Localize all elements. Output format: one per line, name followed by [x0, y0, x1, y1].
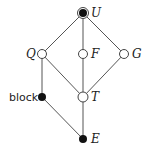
node-G-label: G: [132, 47, 142, 61]
node-F-circle-icon: [79, 50, 88, 59]
node-T-circle-icon: [78, 92, 88, 102]
node-Q-label: Q: [26, 47, 36, 61]
edge-U-G: [83, 13, 124, 54]
node-G-circle-icon: [120, 50, 129, 59]
node-E: E: [79, 132, 100, 146]
node-E-label: E: [90, 132, 100, 146]
node-T: T: [78, 90, 100, 104]
edge-U-Q: [42, 13, 83, 54]
node-Q-circle-icon: [38, 50, 47, 59]
node-block-dot-icon: [38, 93, 46, 101]
edge-Q-T: [42, 54, 83, 97]
node-T-label: T: [91, 90, 100, 104]
node-U: U: [78, 6, 103, 20]
node-U-label: U: [91, 6, 102, 20]
node-block-label: block: [9, 91, 39, 104]
node-block: block: [9, 91, 46, 104]
node-U-dot-icon: [79, 9, 87, 17]
node-F-label: F: [90, 47, 100, 61]
edges: [42, 13, 124, 139]
node-G: G: [120, 47, 143, 61]
node-E-dot-icon: [79, 135, 87, 143]
node-F: F: [79, 47, 101, 61]
node-Q: Q: [26, 47, 47, 61]
lattice-diagram: U Q F G block T E: [0, 0, 148, 154]
edge-G-T: [83, 54, 124, 97]
edge-block-E: [42, 97, 83, 139]
